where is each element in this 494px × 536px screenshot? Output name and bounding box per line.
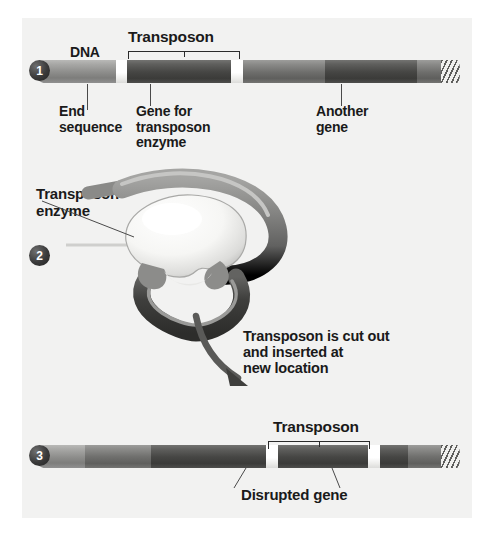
dna-label: DNA [70,45,100,61]
arrow-shaft [196,316,238,378]
leader-disrupted-right [332,468,340,488]
arrow-head [226,368,248,386]
dna-segment-mid [243,60,325,83]
another-gene-label: Another gene [316,104,368,135]
end-sequence-left [116,60,127,83]
transposon-bracket-panel3 [268,441,370,449]
step-badge-3: 3 [29,445,50,466]
enzyme-complex-illustration [60,175,320,315]
end-sequence-label: End sequence [59,104,122,135]
disrupted-gene-left-part [151,445,266,468]
dna-strand-panel3 [35,445,460,468]
dna-segment-right-p3 [408,445,441,468]
step-badge-1: 1 [29,60,50,81]
gene-for-enzyme-label: Gene for transposon enzyme [136,104,210,151]
disrupted-gene-right-part [380,445,408,468]
transition-arrow [186,312,266,396]
leader-another-gene [341,84,342,106]
step-badge-2: 2 [29,245,50,266]
leader-end-sequence [87,84,88,110]
transposon-label-panel1: Transposon [128,28,214,45]
transposon-label-panel3: Transposon [273,418,359,435]
disrupted-gene-leaders [200,466,370,492]
dna-segment-2-p3 [85,445,151,468]
leader-gene-enzyme [150,84,151,106]
transposon-bracket-panel1 [128,51,240,59]
dna-strand-panel1 [35,60,460,83]
enzyme-highlight [142,203,202,235]
dna-break-hatch-panel1 [441,60,460,83]
dna-segment-right [417,60,441,83]
transposon-region [127,60,231,83]
another-gene-region [325,60,417,83]
figure-canvas: 1 DNA Transposon End sequence Gene for t… [0,0,494,536]
dna-break-hatch-panel3 [441,445,460,468]
end-sequence-right [231,60,243,83]
leader-disrupted-left [234,468,246,488]
